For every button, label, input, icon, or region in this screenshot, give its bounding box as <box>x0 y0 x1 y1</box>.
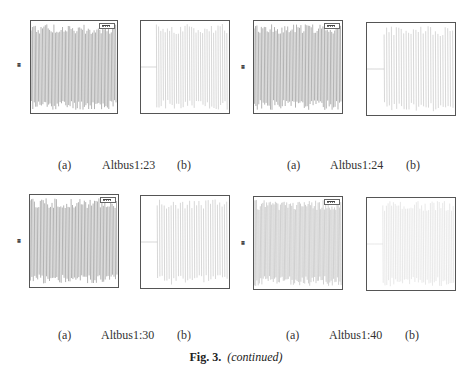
signal-trace-b <box>141 196 229 288</box>
legend <box>99 23 115 29</box>
signal-trace-a <box>254 21 342 113</box>
signal-trace-a <box>31 21 117 113</box>
subfigure-label-b: (b) <box>405 328 419 343</box>
figure-note: (continued) <box>227 350 282 364</box>
figure-number: Fig. 3. <box>190 350 222 364</box>
plot-b-altbus1-24 <box>366 22 456 116</box>
subfigure-label-a: (a) <box>287 158 300 173</box>
y-axis-label: ▮▮ <box>16 63 21 67</box>
signal-trace-a <box>254 197 342 289</box>
plot-a-altbus1-40 <box>253 196 343 290</box>
subfigure-label-b: (b) <box>177 328 191 343</box>
y-axis-label: ▮▮ <box>240 65 245 69</box>
y-axis-label: ▮▮ <box>240 241 245 245</box>
subfigure-label-a: (a) <box>58 328 71 343</box>
plot-b-altbus1-30 <box>140 195 230 289</box>
signal-trace-b <box>141 21 229 113</box>
plot-b-altbus1-40 <box>366 197 456 291</box>
subfigure-label-b: (b) <box>177 158 191 173</box>
signal-trace-b <box>367 198 455 290</box>
legend <box>100 197 116 203</box>
plot-b-altbus1-23 <box>140 20 230 114</box>
subfigure-title: Altbus1:30 <box>101 328 154 343</box>
legend <box>324 199 340 205</box>
subfigure-label-a: (a) <box>58 158 71 173</box>
subfigure-title: Altbus1:24 <box>330 158 383 173</box>
figure-caption: Fig. 3. (continued) <box>0 350 472 365</box>
signal-trace-a <box>30 195 118 287</box>
plot-a-altbus1-23 <box>30 20 118 114</box>
signal-trace-b <box>367 23 455 115</box>
subfigure-label-a: (a) <box>286 328 299 343</box>
plot-a-altbus1-24 <box>253 20 343 114</box>
subfigure-label-b: (b) <box>406 158 420 173</box>
y-axis-label: ▮▮ <box>16 239 21 243</box>
plot-a-altbus1-30 <box>29 194 119 288</box>
legend <box>324 23 340 29</box>
subfigure-title: Altbus1:40 <box>329 328 382 343</box>
subfigure-title: Altbus1:23 <box>102 158 155 173</box>
